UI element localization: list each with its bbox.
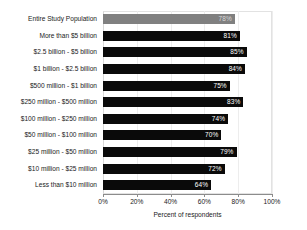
bar-row: 74% [103, 111, 272, 128]
category-label: $500 million - $1 billion [0, 78, 97, 95]
x-tick-label: 60% [189, 198, 219, 205]
category-label: Less than $10 million [0, 177, 97, 194]
bar-value-label: 83% [103, 96, 243, 107]
category-label: $100 million - $250 million [0, 111, 97, 128]
bar-row: 75% [103, 78, 272, 95]
bar-value-label: 85% [103, 46, 247, 57]
bar-value-label: 75% [103, 80, 230, 91]
bar-row: 79% [103, 144, 272, 161]
x-tick-label: 0% [88, 198, 118, 205]
bar-value-label: 78% [103, 13, 235, 24]
x-tick-mark [238, 194, 239, 197]
category-label: $1 billion - $2.5 billion [0, 61, 97, 78]
x-tick-mark [103, 194, 104, 197]
bar-value-label: 72% [103, 163, 225, 174]
category-label: $50 million - $100 million [0, 127, 97, 144]
bar-value-label: 81% [103, 30, 240, 41]
category-label: Entire Study Population [0, 11, 97, 28]
bar-row: 78% [103, 11, 272, 28]
x-tick-mark [204, 194, 205, 197]
bar-value-label: 79% [103, 146, 237, 157]
bar-row: 85% [103, 44, 272, 61]
bar-row: 64% [103, 177, 272, 194]
bar-value-label: 70% [103, 129, 221, 140]
x-tick-mark [137, 194, 138, 197]
x-tick-label: 40% [156, 198, 186, 205]
bar-row: 81% [103, 28, 272, 45]
gridline [272, 11, 273, 194]
bar-row: 72% [103, 161, 272, 178]
x-tick-label: 80% [223, 198, 253, 205]
x-axis-title: Percent of respondents [103, 211, 272, 218]
bar-row: 84% [103, 61, 272, 78]
bar-value-label: 64% [103, 179, 211, 190]
category-label: $250 million - $500 million [0, 94, 97, 111]
bar-value-label: 84% [103, 63, 245, 74]
bar-chart-figure: 78%81%85%84%75%83%74%70%79%72%64% Entire… [0, 0, 307, 230]
category-label: More than $5 billion [0, 28, 97, 45]
x-tick-label: 20% [122, 198, 152, 205]
category-label: $25 million - $50 million [0, 144, 97, 161]
bar-row: 70% [103, 127, 272, 144]
x-axis-line [103, 194, 272, 195]
category-label: $10 million - $25 million [0, 161, 97, 178]
x-tick-mark [272, 194, 273, 197]
category-label: $2.5 billion - $5 billion [0, 44, 97, 61]
bar-row: 83% [103, 94, 272, 111]
bar-value-label: 74% [103, 113, 228, 124]
x-tick-label: 100% [257, 198, 287, 205]
x-tick-mark [171, 194, 172, 197]
